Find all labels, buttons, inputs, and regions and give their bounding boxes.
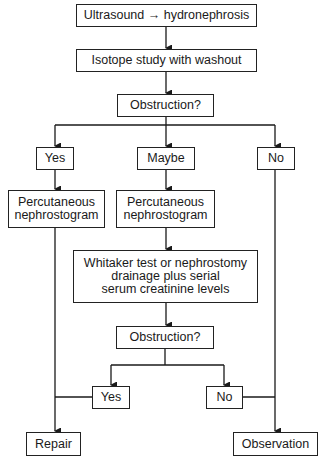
node-maybe: Maybe <box>137 147 195 170</box>
node-no-2: No <box>206 386 243 409</box>
node-repair: Repair <box>26 432 81 456</box>
node-isotope-study: Isotope study with washout <box>76 49 257 72</box>
node-ultrasound-hydronephrosis: Ultrasound → hydronephrosis <box>76 4 257 27</box>
node-percutaneous-nephrostogram-left: Percutaneous nephrostogram <box>8 190 105 228</box>
node-observation: Observation <box>233 432 318 456</box>
node-obstruction-decision-1: Obstruction? <box>117 94 214 117</box>
node-whitaker-test: Whitaker test or nephrostomy drainage pl… <box>73 250 258 303</box>
node-no-1: No <box>257 147 295 170</box>
node-obstruction-decision-2: Obstruction? <box>116 326 214 349</box>
node-percutaneous-nephrostogram-middle: Percutaneous nephrostogram <box>116 190 215 228</box>
node-yes-2: Yes <box>92 386 130 409</box>
node-yes-1: Yes <box>36 147 74 170</box>
